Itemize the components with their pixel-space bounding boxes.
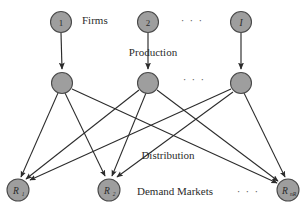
- distribution-caption: Distribution: [141, 149, 195, 161]
- demand-market-node-R2-subscript: 2: [113, 191, 116, 197]
- demand-market-node-RnR-circle[interactable]: [277, 179, 299, 201]
- middle-row-ellipsis: · · ·: [183, 73, 206, 85]
- manufacturing-node-I[interactable]: [231, 73, 252, 94]
- demand-market-node-RnR-label: R: [281, 186, 288, 196]
- firm-node-1-label: 1: [59, 18, 64, 28]
- production-edge-firm1-plant1: [61, 33, 62, 69]
- bottom-row-ellipsis: · · ·: [237, 185, 260, 197]
- demand-market-node-R1[interactable]: R 1: [7, 179, 29, 201]
- supply-chain-diagram: 1 2 I R 1 R: [0, 0, 304, 208]
- firm-node-group: 1 2 I: [51, 12, 252, 33]
- distribution-edge-plant2-R1: [26, 90, 139, 179]
- firm-node-1[interactable]: 1: [51, 12, 72, 33]
- distribution-edge-plant1-R2: [65, 93, 105, 176]
- firms-caption: Firms: [82, 14, 108, 26]
- distribution-edge-plant1-R1: [21, 93, 58, 177]
- demand-market-node-R2[interactable]: R 2: [98, 179, 120, 201]
- firm-node-2[interactable]: 2: [138, 12, 159, 33]
- top-row-ellipsis: · · ·: [181, 14, 204, 26]
- production-caption: Production: [129, 46, 178, 58]
- demand-market-node-R1-label: R: [12, 186, 19, 196]
- distribution-edge-plantI-R1: [30, 89, 231, 180]
- distribution-edge-plantI-RnR: [244, 93, 285, 177]
- demand-market-node-R1-subscript: 1: [22, 191, 25, 197]
- demand-markets-caption: Demand Markets: [137, 185, 213, 197]
- network-canvas: 1 2 I R 1 R: [0, 0, 304, 208]
- distribution-edge-plant2-R2: [112, 93, 146, 176]
- demand-market-node-RnR-subscript: nR: [290, 191, 297, 197]
- demand-market-node-RnR[interactable]: R nR: [277, 179, 299, 201]
- manufacturing-node-1[interactable]: [52, 73, 73, 94]
- demand-market-node-R2-label: R: [103, 186, 110, 196]
- firm-node-I[interactable]: I: [231, 12, 252, 33]
- manufacturing-node-2[interactable]: [138, 73, 159, 94]
- firm-node-2-label: 2: [146, 18, 151, 28]
- distribution-edge-group: [21, 89, 285, 183]
- manufacturing-node-group: [52, 73, 252, 94]
